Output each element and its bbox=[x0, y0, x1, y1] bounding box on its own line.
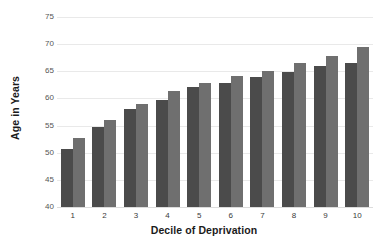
bar bbox=[156, 100, 168, 207]
y-tick-label: 70 bbox=[32, 40, 54, 48]
bar-group bbox=[278, 17, 310, 207]
x-tick-label: 4 bbox=[152, 209, 184, 223]
bar bbox=[219, 83, 231, 207]
x-axis-title: Decile of Deprivation bbox=[30, 224, 378, 236]
bars-layer bbox=[57, 17, 373, 207]
bar bbox=[250, 77, 262, 207]
x-tick-label: 3 bbox=[120, 209, 152, 223]
y-tick-label: 40 bbox=[32, 203, 54, 211]
bar bbox=[61, 149, 73, 207]
y-tick-label: 60 bbox=[32, 94, 54, 102]
x-axis-tick-labels: 12345678910 bbox=[57, 209, 373, 223]
bar bbox=[92, 127, 104, 207]
y-tick-label: 45 bbox=[32, 176, 54, 184]
bar-chart: Age in Years 7570656055504540 1234567891… bbox=[0, 0, 383, 249]
bar-group bbox=[120, 17, 152, 207]
bar bbox=[326, 56, 338, 207]
bar-group bbox=[57, 17, 89, 207]
x-tick-label: 2 bbox=[89, 209, 121, 223]
bar bbox=[168, 91, 180, 207]
y-axis-title: Age in Years bbox=[0, 0, 30, 215]
bar bbox=[199, 83, 211, 207]
x-tick-label: 8 bbox=[278, 209, 310, 223]
bar-group bbox=[183, 17, 215, 207]
bar bbox=[294, 63, 306, 207]
bar bbox=[345, 63, 357, 207]
bar-group bbox=[89, 17, 121, 207]
bar bbox=[136, 104, 148, 207]
gridline bbox=[57, 207, 373, 208]
y-axis-title-text: Age in Years bbox=[9, 75, 21, 139]
x-tick-label: 6 bbox=[215, 209, 247, 223]
bar bbox=[314, 66, 326, 207]
bar-group bbox=[310, 17, 342, 207]
bar bbox=[187, 87, 199, 207]
y-tick-label: 55 bbox=[32, 122, 54, 130]
bar-group bbox=[247, 17, 279, 207]
bar bbox=[357, 47, 369, 207]
x-tick-label: 1 bbox=[57, 209, 89, 223]
y-tick-label: 75 bbox=[32, 13, 54, 21]
bar-group bbox=[152, 17, 184, 207]
bar bbox=[231, 76, 243, 207]
bar bbox=[104, 120, 116, 207]
y-tick-label: 50 bbox=[32, 149, 54, 157]
bar-group bbox=[341, 17, 373, 207]
y-tick-label: 65 bbox=[32, 67, 54, 75]
bar bbox=[262, 71, 274, 207]
x-tick-label: 9 bbox=[310, 209, 342, 223]
x-tick-label: 7 bbox=[247, 209, 279, 223]
x-tick-label: 5 bbox=[183, 209, 215, 223]
bar-group bbox=[215, 17, 247, 207]
y-axis-tick-labels: 7570656055504540 bbox=[28, 17, 54, 207]
bar bbox=[282, 72, 294, 207]
bar bbox=[124, 109, 136, 207]
bar bbox=[73, 138, 85, 207]
x-tick-label: 10 bbox=[341, 209, 373, 223]
